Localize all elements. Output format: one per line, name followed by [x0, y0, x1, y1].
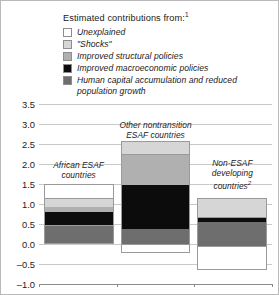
bar-segment-macro	[44, 212, 114, 226]
x-tick-0	[39, 284, 40, 287]
legend-swatch-shocks	[63, 40, 72, 49]
y-axis-tick-label: 3.0	[22, 119, 35, 130]
legend-label-structural: Improved structural policies	[77, 51, 183, 62]
bar-caption-line: ESAF countries	[112, 130, 200, 140]
legend-item-macro: Improved macroeconomic policies	[63, 63, 273, 74]
legend-item-human_capital: Human capital accumulation and reduced p…	[63, 75, 273, 96]
plot-area: 3.53.02.52.01.51.00.50.0–0.5–1.0 African…	[39, 104, 272, 284]
stacked-bar-0	[44, 104, 114, 284]
bar-segment-shocks	[197, 198, 267, 218]
y-axis-tick-label: 1.0	[22, 199, 35, 210]
bar-caption-line: African ESAF	[42, 160, 116, 170]
bar-segment-structural	[121, 155, 191, 185]
legend-item-shocks: "Shocks"	[63, 39, 273, 50]
bar-caption-line: countries2	[199, 178, 265, 191]
legend-label-macro: Improved macroeconomic policies	[77, 63, 208, 74]
bar-segment-unexplained	[121, 244, 191, 253]
legend-swatch-unexplained	[63, 28, 72, 37]
y-axis-tick-label: 2.0	[22, 159, 35, 170]
bar-segment-macro	[121, 185, 191, 229]
chart-figure: Estimated contributions from:1 Unexplain…	[0, 0, 279, 295]
legend-item-structural: Improved structural policies	[63, 51, 273, 62]
bar-caption-line: Non-ESAF	[199, 158, 265, 168]
legend-label-unexplained: Unexplained	[77, 27, 125, 38]
bar-segment-shocks	[121, 141, 191, 155]
chart-legend: Estimated contributions from:1 Unexplain…	[63, 11, 273, 97]
legend-swatch-macro	[63, 64, 72, 73]
y-axis-tick-label: –1.0	[17, 279, 35, 290]
bar-segment-human_capital	[197, 222, 267, 246]
legend-title-footnote-marker: 1	[185, 11, 189, 18]
legend-swatch-structural	[63, 52, 72, 61]
x-tick-1	[117, 284, 118, 287]
legend-swatch-human_capital	[63, 76, 72, 85]
bar-caption-line: countries	[42, 170, 116, 180]
legend-title: Estimated contributions from:1	[63, 11, 273, 23]
legend-title-text: Estimated contributions from:	[63, 13, 185, 23]
x-tick-3	[272, 284, 273, 287]
legend-items: Unexplained"Shocks"Improved structural p…	[63, 27, 273, 96]
x-tick-2	[194, 284, 195, 287]
bar-segment-unexplained	[44, 184, 114, 199]
bar-segment-shocks	[44, 199, 114, 207]
bar-caption-0: African ESAFcountries	[42, 160, 116, 180]
y-axis-tick-label: –0.5	[17, 259, 35, 270]
bar-segment-macro	[197, 218, 267, 222]
bar-caption-footnote-marker: 2	[248, 179, 252, 186]
bar-segment-structural	[44, 207, 114, 211]
stacked-bar-2	[197, 104, 267, 284]
legend-label-shocks: "Shocks"	[77, 39, 112, 50]
y-axis-tick-label: 0.0	[22, 239, 35, 250]
legend-item-unexplained: Unexplained	[63, 27, 273, 38]
bar-caption-line: developing	[199, 168, 265, 178]
gridline-–1.0: –1.0	[39, 284, 272, 285]
y-axis-tick-label: 1.5	[22, 179, 35, 190]
legend-label-human_capital: Human capital accumulation and reduced p…	[77, 75, 273, 96]
bar-caption-1: Other nontransitionESAF countries	[112, 120, 200, 140]
y-axis-tick-label: 3.5	[22, 99, 35, 110]
bar-segment-human_capital	[121, 229, 191, 244]
bar-caption-line: Other nontransition	[112, 120, 200, 130]
y-axis-tick-label: 2.5	[22, 139, 35, 150]
bar-segment-human_capital	[44, 225, 114, 244]
y-axis-tick-label: 0.5	[22, 219, 35, 230]
bar-segment-unexplained	[197, 246, 267, 270]
bar-caption-2: Non-ESAFdevelopingcountries2	[199, 158, 265, 191]
